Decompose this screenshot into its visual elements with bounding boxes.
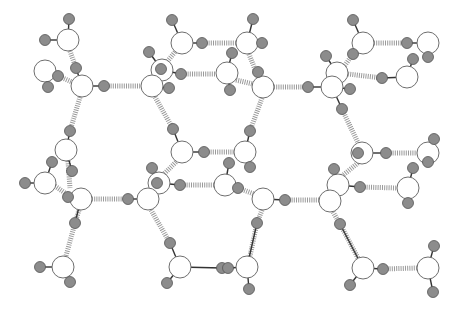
hydrogen-atom [168, 124, 179, 135]
hydrogen-atom [233, 183, 244, 194]
oxygen-atom [352, 257, 374, 279]
oxygen-atom [171, 32, 193, 54]
oxygen-atom [236, 256, 258, 278]
hydrogen-atom [164, 83, 175, 94]
oxygen-atom [417, 257, 439, 279]
hydrogen-atom [65, 126, 76, 137]
oxygen-atom [417, 32, 439, 54]
hydrogen-atom [175, 180, 186, 191]
water-lattice-diagram [0, 0, 458, 316]
oxygen-atom [397, 177, 419, 199]
hydrogen-atom [152, 178, 163, 189]
hydrogen-atom [245, 162, 256, 173]
hydrogen-atom [402, 38, 413, 49]
oxygen-atom [57, 29, 79, 51]
hydrogen-atom [280, 195, 291, 206]
hydrogen-atom [63, 192, 74, 203]
hydrogen-atom [227, 48, 238, 59]
hydrogen-atom [47, 157, 58, 168]
hydrogen-atom [65, 277, 76, 288]
hydrogen-atom [156, 64, 167, 75]
hydrogen-atom [429, 241, 440, 252]
hydrogen-atom [403, 198, 414, 209]
hydrogen-atom [162, 278, 173, 289]
hydrogen-atom [53, 71, 64, 82]
oxygen-atom [396, 66, 418, 88]
oxygen-atom [34, 60, 56, 82]
hydrogen-atom [71, 63, 82, 74]
hydrogen-atom [99, 81, 110, 92]
oxygen-atom [214, 174, 236, 196]
hydrogen-atom [20, 178, 31, 189]
hydrogen-atom [378, 264, 389, 275]
hydrogen-atom [345, 280, 356, 291]
oxygen-atom [236, 32, 258, 54]
oxygen-atom [34, 172, 56, 194]
hydrogen-atom [408, 163, 419, 174]
hydrogen-atom [257, 38, 268, 49]
hydrogen-atom [40, 35, 51, 46]
oxygen-atom [141, 75, 163, 97]
hydrogen-atom [43, 82, 54, 93]
hydrogen-atom [423, 52, 434, 63]
oxygen-atom [55, 139, 77, 161]
hydrogen-atom [377, 73, 388, 84]
oxygen-atom [319, 190, 341, 212]
hydrogen-atom [165, 238, 176, 249]
hydrogen-atom [224, 158, 235, 169]
hydrogen-atom [147, 163, 158, 174]
hydrogen-atom [123, 194, 134, 205]
hydrogen-atom [428, 287, 439, 298]
hydrogen-atom [248, 14, 259, 25]
hydrogen-atom [67, 166, 78, 177]
hydrogen-atom [337, 104, 348, 115]
hydrogen-atom [144, 47, 155, 58]
hydrogen-atom [197, 38, 208, 49]
hydrogen-atom [408, 54, 419, 65]
hydrogen-atom [64, 14, 75, 25]
hydrogen-atom [355, 182, 366, 193]
hydrogen-atom [70, 218, 81, 229]
oxygen-atom [321, 76, 343, 98]
hydrogen-atom [381, 148, 392, 159]
hydrogen-atom [223, 263, 234, 274]
oxygen-atom [71, 75, 93, 97]
oxygen-atom [52, 256, 74, 278]
hydrogen-atom [329, 164, 340, 175]
oxygen-atom [137, 188, 159, 210]
hydrogen-atom [176, 69, 187, 80]
hydrogen-atom [348, 15, 359, 26]
hydrogen-atom [245, 126, 256, 137]
hydrogen-atom [244, 284, 255, 295]
hydrogen-atom [429, 134, 440, 145]
hydrogen-atom [225, 85, 236, 96]
hydrogen-atom [253, 67, 264, 78]
oxygen-atom [216, 62, 238, 84]
hydrogen-atom [348, 49, 359, 60]
oxygen-atom [252, 188, 274, 210]
oxygen-atom [252, 76, 274, 98]
oxygen-atom [171, 141, 193, 163]
oxygen-atom [169, 256, 191, 278]
hydrogen-atom [321, 51, 332, 62]
hydrogen-atom [345, 84, 356, 95]
hydrogen-atom [353, 148, 364, 159]
hydrogen-atom [199, 147, 210, 158]
hydrogen-atom [167, 15, 178, 26]
hydrogen-atom [35, 262, 46, 273]
hydrogen-atom [335, 219, 346, 230]
hydrogen-atom [423, 157, 434, 168]
oxygen-atom [234, 141, 256, 163]
hydrogen-atom [252, 218, 263, 229]
hydrogen-atom [303, 82, 314, 93]
